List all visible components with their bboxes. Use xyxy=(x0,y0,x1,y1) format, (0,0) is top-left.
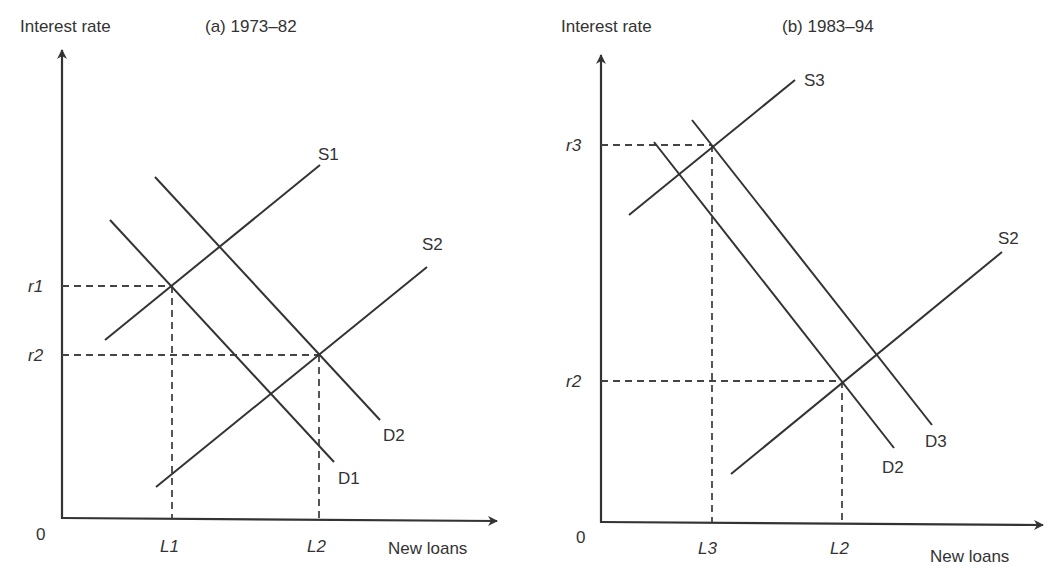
supply-curve-line xyxy=(105,165,320,340)
curve-d2: D2 xyxy=(654,142,904,477)
rate-label-r2: r2 xyxy=(566,372,582,391)
panel-a-guide-r1: r1 L1 xyxy=(28,277,179,556)
panel-a: (a) 1973–82 Interest rate New loans 0 r1… xyxy=(20,17,497,558)
curve-label-d1: D1 xyxy=(338,469,360,488)
panel-a-x-axis xyxy=(61,518,497,521)
curve-s3: S3 xyxy=(629,71,825,215)
curve-label-d2: D2 xyxy=(383,426,405,445)
supply-demand-diagram: (a) 1973–82 Interest rate New loans 0 r1… xyxy=(0,0,1063,583)
loan-label-l2: L2 xyxy=(307,537,326,556)
curve-s2: S2 xyxy=(156,235,443,487)
demand-curve-line xyxy=(155,177,380,420)
curve-label-s3: S3 xyxy=(804,71,825,90)
supply-curve-line xyxy=(156,267,427,487)
curve-label-s2: S2 xyxy=(422,235,443,254)
panel-b-title: (b) 1983–94 xyxy=(782,17,874,36)
panel-a-title: (a) 1973–82 xyxy=(205,17,297,36)
curve-label-d3: D3 xyxy=(925,432,947,451)
loan-label-l1: L1 xyxy=(160,537,179,556)
panel-a-y-axis-label: Interest rate xyxy=(20,17,111,36)
loan-label-l2: L2 xyxy=(830,539,849,558)
panel-b: (b) 1983–94 Interest rate New loans 0 r3… xyxy=(561,17,1043,566)
rate-label-r2: r2 xyxy=(28,346,44,365)
curve-label-s2: S2 xyxy=(998,229,1019,248)
demand-curve-line xyxy=(654,142,894,448)
panel-a-x-axis-label: New loans xyxy=(388,539,467,558)
rate-label-r1: r1 xyxy=(28,277,43,296)
curve-label-d2: D2 xyxy=(882,458,904,477)
demand-curve-line xyxy=(692,120,932,425)
panel-b-origin-label: 0 xyxy=(576,528,585,547)
panel-b-y-axis-label: Interest rate xyxy=(561,17,652,36)
panel-a-origin-label: 0 xyxy=(36,525,45,544)
panel-a-guide-r2: r2 L2 xyxy=(28,346,326,556)
panel-b-x-axis xyxy=(600,522,1043,525)
curve-s1: S1 xyxy=(105,145,339,340)
curve-label-s1: S1 xyxy=(318,145,339,164)
panel-b-guide-r3: r3 L3 xyxy=(566,136,717,558)
supply-curve-line xyxy=(731,252,1002,474)
panel-b-x-axis-label: New loans xyxy=(930,547,1009,566)
panel-b-guide-r2: r2 L2 xyxy=(566,372,849,558)
demand-curve-line xyxy=(110,220,334,462)
curve-d1: D1 xyxy=(110,220,360,488)
rate-label-r3: r3 xyxy=(566,136,582,155)
loan-label-l3: L3 xyxy=(698,539,717,558)
